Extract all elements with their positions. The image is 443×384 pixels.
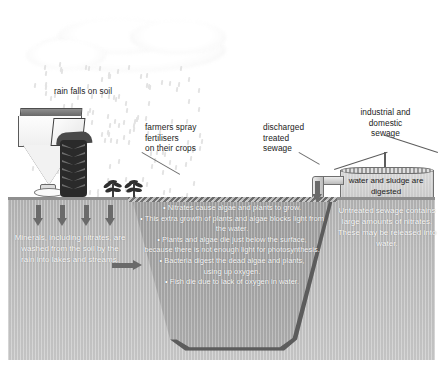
raindrop-icon bbox=[148, 101, 150, 106]
raindrop-icon bbox=[88, 66, 90, 71]
raindrop-icon bbox=[150, 164, 152, 169]
label-water-sludge-digested: water and sludge are digested bbox=[340, 176, 432, 197]
raindrop-icon bbox=[107, 114, 109, 119]
raindrop-icon bbox=[44, 71, 46, 76]
raindrop-icon bbox=[198, 88, 200, 93]
raindrop-icon bbox=[117, 94, 119, 99]
crop-plant-icon bbox=[124, 178, 144, 198]
raindrop-icon bbox=[101, 77, 103, 82]
raindrop-icon bbox=[160, 80, 162, 85]
raindrop-icon bbox=[168, 188, 170, 193]
raindrop-icon bbox=[127, 65, 129, 70]
raindrop-icon bbox=[179, 66, 181, 71]
lake-effects-list: • Nitrates cause algae and plants to gro… bbox=[134, 203, 330, 288]
lake-effect-item: • Plants and algae die just below the su… bbox=[144, 235, 320, 256]
raindrop-icon bbox=[45, 81, 47, 86]
raindrop-icon bbox=[189, 156, 191, 161]
raindrop-icon bbox=[44, 65, 46, 70]
raindrop-icon bbox=[133, 127, 135, 132]
raindrop-icon bbox=[139, 74, 141, 79]
raindrop-icon bbox=[185, 162, 187, 167]
raindrop-icon bbox=[126, 108, 128, 113]
raindrop-icon bbox=[188, 76, 190, 81]
label-discharged-treated-sewage: discharged treated sewage bbox=[263, 122, 304, 154]
raindrop-icon bbox=[117, 69, 119, 74]
tractor-spreader-icon bbox=[16, 108, 100, 198]
raindrop-icon bbox=[122, 135, 124, 140]
soil-runoff-text: Minerals, including nitrates, are washed… bbox=[14, 232, 126, 265]
eutrophication-diagram: rain falls on soil bbox=[0, 0, 443, 384]
raindrop-icon bbox=[107, 74, 109, 79]
raindrop-icon bbox=[114, 119, 116, 124]
raindrop-icon bbox=[169, 81, 171, 86]
raindrop-icon bbox=[162, 170, 164, 175]
raindrop-icon bbox=[116, 139, 118, 144]
raindrop-icon bbox=[137, 115, 139, 120]
sewage-tank-top-icon bbox=[340, 167, 434, 174]
raindrop-icon bbox=[128, 140, 130, 145]
raindrop-icon bbox=[59, 67, 61, 72]
raindrop-icon bbox=[199, 133, 201, 138]
raindrop-icon bbox=[162, 190, 164, 195]
raindrop-icon bbox=[144, 116, 146, 121]
lake-effect-item: • This extra growth of plants and algae … bbox=[139, 214, 325, 235]
raindrop-icon bbox=[100, 132, 102, 137]
raindrop-icon bbox=[199, 146, 201, 151]
raindrop-icon bbox=[198, 107, 200, 112]
raindrop-icon bbox=[45, 91, 47, 96]
raindrop-icon bbox=[149, 85, 151, 90]
raindrop-icon bbox=[123, 120, 125, 125]
raindrop-icon bbox=[178, 82, 180, 87]
raindrop-icon bbox=[176, 87, 178, 92]
raindrop-icon bbox=[110, 138, 112, 143]
raindrop-icon bbox=[109, 164, 111, 169]
lake-effect-item: • Nitrates cause algae and plants to gro… bbox=[134, 203, 330, 214]
untreated-sewage-text: Untreated sewage contains large amounts … bbox=[337, 205, 437, 249]
raindrop-icon bbox=[201, 139, 203, 144]
water-surface-line bbox=[128, 197, 337, 202]
raindrop-icon bbox=[103, 138, 105, 143]
raindrop-icon bbox=[124, 100, 126, 105]
crop-plant-icon bbox=[103, 178, 123, 198]
raindrop-icon bbox=[169, 160, 171, 165]
raindrop-icon bbox=[98, 66, 100, 71]
raindrop-icon bbox=[128, 129, 130, 134]
raindrop-icon bbox=[34, 83, 36, 88]
label-farmers-spray-fertilisers: farmers spray fertilisers on their crops bbox=[145, 122, 196, 154]
lake-effect-item: • Bacteria digest the dead algae and pla… bbox=[157, 256, 307, 277]
raindrop-icon bbox=[145, 73, 147, 78]
raindrop-icon bbox=[50, 96, 52, 101]
raindrop-icon bbox=[115, 97, 117, 102]
raindrop-icon bbox=[118, 123, 120, 128]
raindrop-icon bbox=[175, 165, 177, 170]
raindrop-icon bbox=[109, 123, 111, 128]
raindrop-icon bbox=[117, 159, 119, 164]
raindrop-icon bbox=[193, 181, 195, 186]
lake-effect-item: • Fish die due to lack of oxygen in wate… bbox=[162, 277, 302, 288]
raindrop-icon bbox=[187, 98, 189, 103]
raindrop-icon bbox=[146, 182, 148, 187]
label-rain-falls-on-soil: rain falls on soil bbox=[54, 86, 112, 97]
